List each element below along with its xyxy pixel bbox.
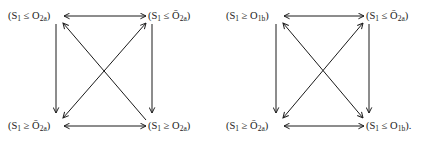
state-diagram-right: (S1 ≥ O1b) (S1 ≤ Ō2a) (S1 ≥ Ō2a) (S1 ≤ O… (214, 0, 428, 142)
node-top-left: (S1 ≤ O2a) (8, 10, 50, 22)
node-bottom-left: (S1 ≥ Ō2a) (226, 120, 268, 132)
node-bottom-left: (S1 ≥ Ō2a) (8, 120, 50, 132)
node-bottom-right: (S1 ≤ O1b). (366, 120, 411, 132)
node-top-left: (S1 ≥ O1b) (226, 10, 269, 22)
state-diagram-left: (S1 ≤ O2a) (S1 ≤ Ō2a) (S1 ≥ Ō2a) (S1 ≥ O… (0, 0, 214, 142)
node-top-right: (S1 ≤ Ō2a) (366, 10, 408, 22)
node-bottom-right: (S1 ≥ O2a) (148, 120, 190, 132)
node-top-right: (S1 ≤ Ō2a) (148, 10, 190, 22)
